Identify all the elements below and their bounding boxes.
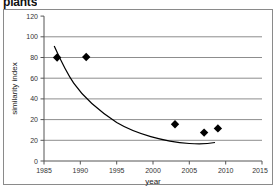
y-tick-label: 120 xyxy=(26,13,38,20)
y-tick-label: 100 xyxy=(26,33,38,40)
chart-title-clipped: plants xyxy=(3,0,37,9)
gridlines-horizontal xyxy=(44,37,262,141)
x-tick-labels: 1985 1990 1995 2000 2005 2010 2015 xyxy=(36,167,268,174)
y-tick-label: 0 xyxy=(34,158,38,165)
figure-frame: 120 100 80 60 40 20 20 0 1985 1990 1995 … xyxy=(3,9,273,185)
y-axis-title: similarity index xyxy=(10,62,19,114)
x-tick-label: 1985 xyxy=(36,167,52,174)
data-point-marker xyxy=(82,53,90,61)
y-tick-label: 20 xyxy=(30,116,38,123)
x-axis-title: year xyxy=(145,177,161,186)
x-tick-label: 2000 xyxy=(145,167,161,174)
x-tick-label: 2015 xyxy=(252,167,268,174)
y-axis xyxy=(41,16,45,161)
data-point-marker xyxy=(200,128,208,136)
x-tick-label: 1995 xyxy=(109,167,125,174)
x-axis xyxy=(44,161,262,165)
data-point-marker xyxy=(171,120,179,128)
data-points xyxy=(53,53,222,137)
trend-curve xyxy=(54,46,215,144)
scatter-chart-svg: 120 100 80 60 40 20 20 0 1985 1990 1995 … xyxy=(4,10,274,186)
y-tick-labels: 120 100 80 60 40 20 20 0 xyxy=(26,13,38,165)
data-point-marker xyxy=(53,53,61,61)
chart-plot-area: 120 100 80 60 40 20 20 0 1985 1990 1995 … xyxy=(4,10,274,186)
chart-title-text: plants xyxy=(3,0,37,9)
y-tick-label: 20 xyxy=(30,137,38,144)
y-tick-label: 80 xyxy=(30,54,38,61)
data-point-marker xyxy=(214,124,222,132)
x-tick-label: 2005 xyxy=(182,167,198,174)
x-tick-label: 2010 xyxy=(218,167,234,174)
x-tick-label: 1990 xyxy=(73,167,89,174)
y-tick-label: 40 xyxy=(30,95,38,102)
y-tick-label: 60 xyxy=(30,75,38,82)
